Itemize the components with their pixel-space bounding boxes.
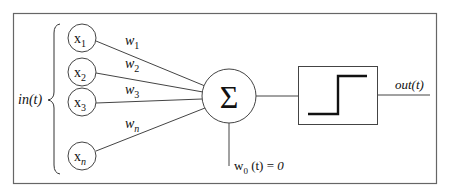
input-node-label: x [74,31,81,46]
input-node-x1: x1 [68,24,96,52]
input-node-label: x [74,65,81,80]
input-node-label: x [74,95,81,110]
input-node-xn: xn [68,142,96,170]
summation-node: Σ [202,69,256,123]
summation-icon: Σ [220,79,239,115]
input-group-label: in(t) [18,92,42,108]
input-node-x2: x2 [68,58,96,86]
activation-step-function [299,67,378,125]
input-node-label: x [74,149,81,164]
output-label: out(t) [395,77,424,92]
perceptron-diagram: in(t) x1 x2 x3 xn w1 w2 [0,0,449,190]
input-node-x3: x3 [68,88,96,116]
